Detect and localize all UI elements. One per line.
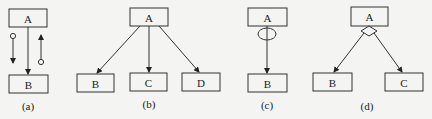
node-b-C-label: C [145,77,152,89]
node-d-C-label: C [400,77,407,89]
call-arrow-d-AC [374,33,402,72]
node-b-B-label: B [92,78,99,90]
call-arrow-b-AD [159,26,199,72]
panel-c: A B (c) [248,8,287,112]
structure-chart-diagram: A B (a) A B C D (b) A B (c) [0,0,432,119]
node-b-D-label: D [197,77,205,89]
data-couple-circle-icon [10,33,15,38]
caption-c: (c) [261,99,274,112]
node-a-B-label: B [25,79,32,91]
panel-a: A B (a) [9,9,48,113]
panel-d: A B C (d) [313,7,423,113]
caption-b: (b) [143,98,156,111]
node-d-A-label: A [366,11,374,23]
caption-d: (d) [361,100,374,113]
caption-a: (a) [22,100,35,113]
node-d-B-label: B [329,77,336,89]
call-arrow-d-AB [334,33,364,72]
node-c-B-label: B [264,78,271,90]
call-arrow-b-AB [97,26,140,73]
node-c-A-label: A [264,12,272,24]
data-couple-circle-icon [38,59,43,64]
panel-b: A B C D (b) [77,8,220,111]
node-b-A-label: A [145,12,153,24]
node-a-A-label: A [24,13,32,25]
